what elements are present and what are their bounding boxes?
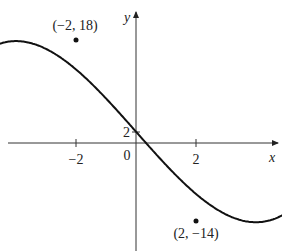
y-axis-label: y [122,10,131,25]
function-curve [0,41,282,222]
origin-label: 0 [124,148,131,163]
x-tick-label-2: 2 [193,152,200,167]
min-point-label: (2, −14) [173,226,219,242]
x-axis-label: x [268,150,276,165]
min-point-marker [194,219,199,224]
max-point-label: (−2, 18) [52,18,98,34]
y-tick-label-2: 2 [123,125,130,140]
x-tick-label-neg2: −2 [69,152,84,167]
max-point-marker [74,38,79,43]
function-graph: −2 2 0 2 x y (−2, 18) (2, −14) [0,0,282,251]
